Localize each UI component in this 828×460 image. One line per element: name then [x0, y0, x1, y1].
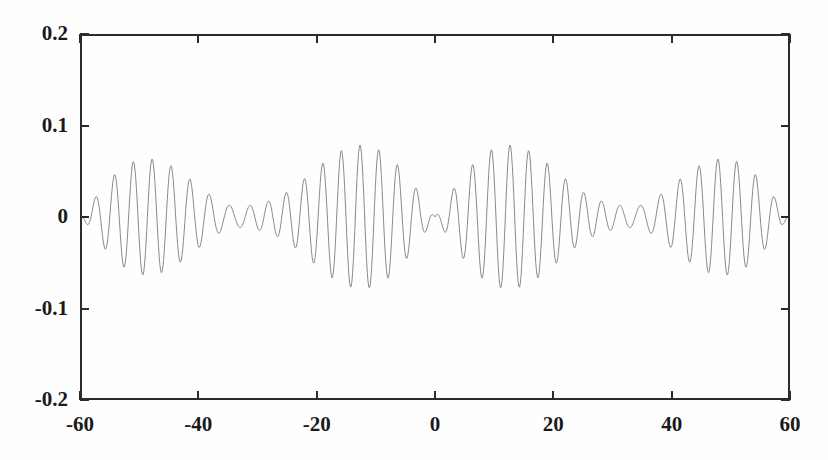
y-tick-label: 0: [0, 206, 68, 227]
y-tick-mark: [781, 216, 790, 218]
x-tick-mark: [316, 34, 318, 43]
x-tick-label: 40: [612, 414, 732, 435]
plot-area: [80, 34, 790, 400]
x-tick-mark: [197, 391, 199, 400]
y-tick-label: 0.1: [0, 115, 68, 136]
y-tick-mark: [80, 33, 89, 35]
x-tick-mark: [79, 391, 81, 400]
y-tick-mark: [80, 216, 89, 218]
x-tick-mark: [197, 34, 199, 43]
x-tick-label: -40: [138, 414, 258, 435]
x-tick-label: -20: [257, 414, 377, 435]
x-tick-label: 60: [730, 414, 828, 435]
x-tick-mark: [434, 34, 436, 43]
x-tick-mark: [552, 391, 554, 400]
y-tick-mark: [781, 125, 790, 127]
x-tick-label: 0: [375, 414, 495, 435]
y-tick-mark: [781, 308, 790, 310]
y-tick-mark: [80, 308, 89, 310]
signal-curve: [82, 36, 788, 398]
x-tick-mark: [79, 34, 81, 43]
x-tick-mark: [552, 34, 554, 43]
y-tick-label: 0.2: [0, 23, 68, 44]
y-tick-label: -0.2: [0, 389, 68, 410]
x-tick-mark: [671, 391, 673, 400]
y-tick-mark: [80, 399, 89, 401]
x-tick-mark: [316, 391, 318, 400]
x-tick-mark: [434, 391, 436, 400]
y-tick-label: -0.1: [0, 298, 68, 319]
x-tick-mark: [671, 34, 673, 43]
x-tick-label: -60: [20, 414, 140, 435]
x-tick-label: 20: [493, 414, 613, 435]
chart-figure: -0.2-0.100.10.2 -60-40-200204060: [0, 0, 828, 460]
x-tick-mark: [789, 391, 791, 400]
x-tick-mark: [789, 34, 791, 43]
y-tick-mark: [80, 125, 89, 127]
